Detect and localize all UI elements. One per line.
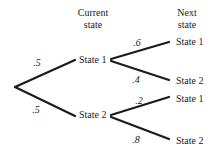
probability-label-state2-to-state2: .8: [132, 134, 140, 145]
probability-tree-svg: Current state Next state .5 .5 .6 .4 .2 …: [0, 0, 211, 152]
probability-label-state1-to-state2: .4: [132, 74, 140, 85]
probability-label-root-to-state2: .5: [32, 104, 40, 115]
probability-label-root-to-state1: .5: [33, 57, 41, 68]
current-state-header-line1: Current: [78, 7, 109, 18]
current-state1-label: State 1: [79, 54, 107, 65]
probability-label-state1-to-state1: .6: [133, 37, 141, 48]
branch-line-state2-to-state2: [111, 117, 169, 139]
current-state2-label: State 2: [79, 109, 107, 120]
probability-tree-figure: Current state Next state .5 .5 .6 .4 .2 …: [0, 0, 211, 152]
branch-line-state1-to-state2: [111, 61, 169, 80]
next-state-header-line1: Next: [177, 7, 197, 18]
current-state-header-line2: state: [84, 19, 103, 30]
next-state-label-from-state1-b: State 2: [176, 75, 204, 86]
next-state-label-from-state2-a: State 1: [176, 93, 204, 104]
next-state-header-line2: state: [178, 19, 197, 30]
next-state-label-from-state1-a: State 1: [176, 36, 204, 47]
branch-line-root-to-state2: [15, 87, 75, 116]
probability-label-state2-to-state1: .2: [135, 95, 143, 106]
next-state-label-from-state2-b: State 2: [176, 135, 204, 146]
branch-line-root-to-state1: [15, 60, 75, 87]
